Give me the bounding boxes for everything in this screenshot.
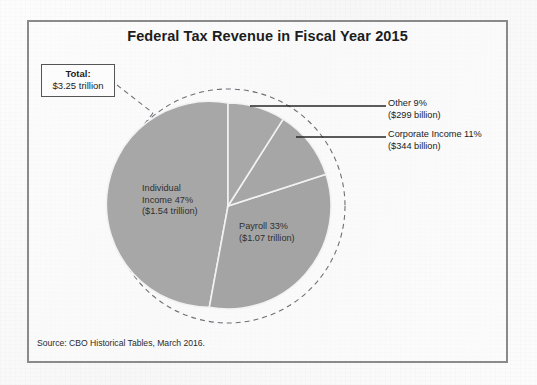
pie-label-payroll: Payroll 33% ($1.07 trillion) [239, 221, 295, 244]
callout-label-corporate-income: Corporate Income 11% ($344 billion) [388, 129, 482, 152]
source-note: Source: CBO Historical Tables, March 201… [37, 338, 205, 348]
callout-label-other: Other 9% ($299 billion) [388, 98, 441, 121]
pie-chart [0, 0, 537, 385]
figure-page: Federal Tax Revenue in Fiscal Year 2015 … [0, 0, 537, 385]
pie-label-individual-income: Individual Income 47% ($1.54 trillion) [142, 183, 198, 218]
total-connector-line [117, 85, 153, 113]
